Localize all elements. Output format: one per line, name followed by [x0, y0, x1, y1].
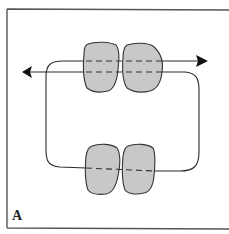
bottom-left-subunit — [85, 144, 119, 194]
panel-label: A — [12, 208, 22, 224]
diagram-canvas — [0, 0, 229, 234]
bottom-right-subunit — [122, 144, 155, 194]
top-right-subunit — [123, 43, 163, 92]
frame-border — [7, 9, 229, 229]
top-left-subunit — [83, 42, 118, 92]
